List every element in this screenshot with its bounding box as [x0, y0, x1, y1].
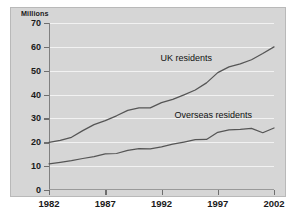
plot-area: 010203040506070 19821987199219972002 UK …	[49, 23, 274, 190]
y-axis-tick-label: 30	[31, 113, 41, 123]
series-label: UK residents	[160, 53, 212, 63]
x-axis-tick	[49, 190, 50, 195]
y-axis-tick-label: 0	[36, 185, 41, 195]
chart-figure: Millions 010203040506070 198219871992199…	[10, 7, 286, 197]
x-axis-tick	[218, 190, 219, 195]
x-axis-tick-label: 1992	[151, 198, 172, 209]
y-axis-tick-label: 40	[31, 90, 41, 100]
series-line	[49, 128, 274, 164]
x-axis-tick	[105, 190, 106, 195]
x-axis-tick	[162, 190, 163, 195]
x-axis-tick-label: 1982	[38, 198, 59, 209]
y-axis-tick-label: 20	[31, 137, 41, 147]
y-axis-unit-label: Millions	[21, 9, 49, 18]
y-axis-tick-label: 10	[31, 161, 41, 171]
y-axis-tick-label: 50	[31, 66, 41, 76]
x-axis-tick	[274, 190, 275, 195]
series-container	[49, 23, 274, 190]
series-label: Overseas residents	[174, 110, 252, 120]
x-axis-tick-label: 1997	[207, 198, 228, 209]
y-axis-tick-label: 60	[31, 42, 41, 52]
x-axis-tick-label: 1987	[95, 198, 116, 209]
x-axis-tick-label: 2002	[263, 198, 284, 209]
y-axis-tick-label: 70	[31, 18, 41, 28]
